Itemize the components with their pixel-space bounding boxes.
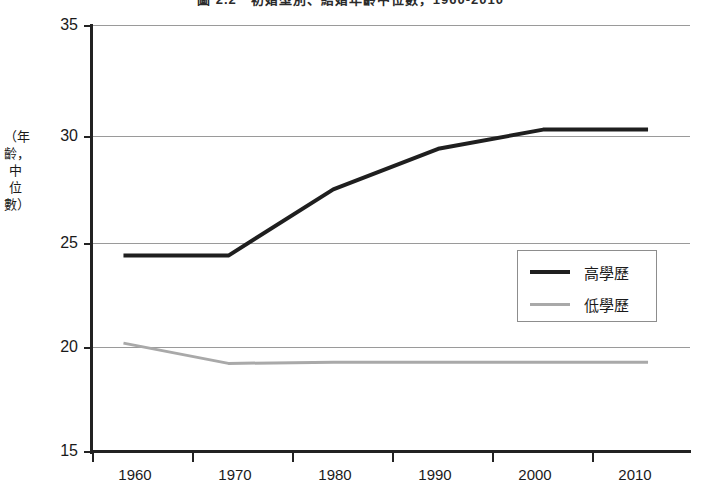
series-line-high-education: [123, 130, 648, 256]
legend-entry-low-education: 低學歷: [518, 289, 658, 319]
legend-entry-high-education: 高學歷: [518, 257, 658, 287]
legend-swatch-high-education: [530, 267, 570, 277]
figure-container: 圖 2.2 初婚型別、結婚年齡中位數，1960-2010 （年齡，中位數） 35…: [0, 0, 701, 501]
legend-label-high-education: 高學歷: [584, 262, 629, 283]
legend-label-low-education: 低學歷: [584, 294, 629, 315]
legend: 高學歷 低學歷: [517, 250, 657, 322]
legend-swatch-low-education: [530, 299, 570, 309]
series-line-low-education: [123, 343, 648, 363]
